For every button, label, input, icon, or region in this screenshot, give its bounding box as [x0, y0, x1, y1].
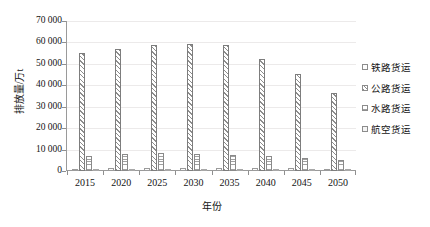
y-tick-mark: [62, 171, 66, 172]
bar: [338, 160, 344, 171]
legend-swatch-icon: [362, 85, 368, 91]
legend-label: 公路货运: [371, 81, 411, 95]
y-tick-mark: [62, 107, 66, 108]
bar: [151, 45, 157, 171]
x-tick-mark: [175, 171, 211, 175]
bar: [115, 49, 121, 171]
y-tick-label: 20 000: [6, 122, 62, 132]
x-tick-label: 2025: [139, 177, 175, 188]
x-tick-label: 2045: [284, 177, 320, 188]
legend-item[interactable]: 铁路货运: [362, 60, 411, 74]
bar: [194, 154, 200, 171]
y-tick-label: 0: [6, 165, 62, 175]
bar: [230, 155, 236, 171]
bar-group: [175, 21, 211, 171]
x-tick-mark: [212, 171, 248, 175]
bar: [187, 44, 193, 171]
x-tick-mark: [139, 171, 175, 175]
bar: [158, 153, 164, 171]
bar-group: [139, 21, 175, 171]
bar: [331, 93, 337, 171]
x-tick-mark: [284, 171, 320, 175]
legend-item[interactable]: 公路货运: [362, 81, 411, 95]
x-tick-mark: [320, 171, 356, 175]
y-tick-mark: [62, 42, 66, 43]
x-tick-label: 2040: [248, 177, 284, 188]
bar: [302, 158, 308, 171]
bar-group: [212, 21, 248, 171]
legend-label: 水路货运: [371, 101, 411, 115]
bar: [266, 156, 272, 171]
bar: [86, 156, 92, 171]
legend-swatch-icon: [362, 105, 368, 111]
y-tick-label: 50 000: [6, 58, 62, 68]
y-tick-label: 60 000: [6, 36, 62, 46]
bar: [295, 74, 301, 172]
y-tick-label: 40 000: [6, 79, 62, 89]
bar-group: [248, 21, 284, 171]
x-tick-mark: [248, 171, 284, 175]
y-tick-label: 10 000: [6, 144, 62, 154]
x-tick-label: 2035: [212, 177, 248, 188]
chart-legend: 铁路货运公路货运水路货运航空货运: [362, 60, 411, 136]
bar: [259, 59, 265, 171]
y-tick-label: 70 000: [6, 15, 62, 25]
y-tick-mark: [62, 150, 66, 151]
legend-swatch-icon: [362, 126, 368, 132]
legend-label: 航空货运: [371, 122, 411, 136]
bar-group: [320, 21, 356, 171]
x-tick-label: 2030: [175, 177, 211, 188]
x-tick-label: 2015: [67, 177, 103, 188]
x-tick-mark: [67, 171, 103, 175]
legend-swatch-icon: [362, 64, 368, 70]
legend-item[interactable]: 水路货运: [362, 101, 411, 115]
legend-label: 铁路货运: [371, 60, 411, 74]
bar-groups: [67, 21, 356, 171]
x-tick-mark: [103, 171, 139, 175]
x-tick-label: 2050: [320, 177, 356, 188]
bar: [223, 45, 229, 171]
x-axis-title: 年份: [67, 198, 356, 213]
bar: [122, 154, 128, 171]
y-tick-mark: [62, 128, 66, 129]
bar-group: [284, 21, 320, 171]
y-tick-mark: [62, 64, 66, 65]
y-tick-label: 30 000: [6, 101, 62, 111]
bar-group: [103, 21, 139, 171]
x-tick-label: 2020: [103, 177, 139, 188]
y-tick-mark: [62, 21, 66, 22]
bar-group: [67, 21, 103, 171]
x-axis-labels: 20152020202520302035204020452050: [67, 177, 356, 188]
freight-emissions-bar-chart: 排放量/万t 010 00020 00030 00040 00050 00060…: [0, 0, 430, 227]
y-tick-mark: [62, 85, 66, 86]
legend-item[interactable]: 航空货运: [362, 122, 411, 136]
bar: [79, 53, 85, 172]
x-axis-tick-marks: [67, 171, 356, 175]
